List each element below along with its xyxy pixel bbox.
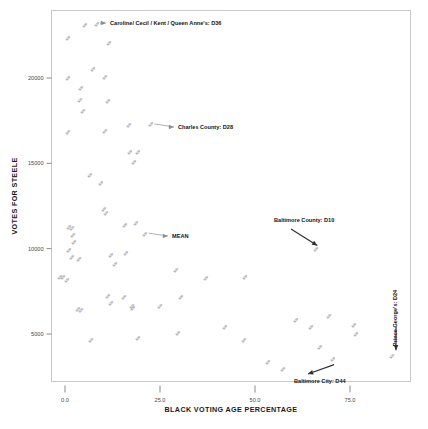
data-point-marker: ✐ <box>102 128 108 135</box>
scatter-chart: 5000100001500020000 0.025.050.075.0 VOTE… <box>0 0 428 429</box>
data-point-marker: ✐ <box>65 35 71 42</box>
data-point-marker: ✐ <box>122 222 128 229</box>
data-point-marker: ✐ <box>80 108 86 115</box>
annotation-charles-county: Charles County: D28 <box>154 124 233 130</box>
data-point-marker: ✐ <box>64 277 70 284</box>
y-tick-label: 10000 <box>28 246 44 252</box>
data-point-marker: ✐ <box>148 121 154 128</box>
data-point-marker: ✐ <box>71 239 77 246</box>
annotation-text: Prince George's: D24 <box>392 289 398 346</box>
data-point-marker: ✐ <box>389 353 395 360</box>
y-tick-label: 20000 <box>28 75 44 81</box>
y-tick-label: 15000 <box>28 160 44 166</box>
data-point-marker: ✐ <box>280 366 286 373</box>
annotation-layer: Caroline/ Cecil / Kent / Queen Anne's: D… <box>100 20 398 384</box>
annotation-text: Caroline/ Cecil / Kent / Queen Anne's: D… <box>110 20 221 26</box>
annotation-text: Baltimore City: D44 <box>294 378 346 384</box>
y-axis-ticks: 5000100001500020000 <box>28 75 52 337</box>
annotation-baltimore-county: Baltimore County: D10 <box>274 217 334 246</box>
data-point-layer: ✐✐✐✐✐✐✐✐✐✐✐✐✐✐✐✐✐✐✐✐✐✐✐✐✐✐✐✐✐✐✐✐✐✐✐✐✐✐✐✐… <box>57 21 394 374</box>
annotation-caroline-cecil-kent-queen-annes: Caroline/ Cecil / Kent / Queen Anne's: D… <box>100 20 221 26</box>
annotation-mean: MEAN <box>149 233 189 239</box>
data-point-marker: ✐ <box>293 317 299 324</box>
annotation-arrow-head <box>101 21 106 26</box>
data-point-marker: ✐ <box>126 122 132 129</box>
data-point-marker: ✐ <box>105 98 111 105</box>
data-point-marker: ✐ <box>108 300 114 307</box>
data-point-marker: ✐ <box>127 149 133 156</box>
data-point-marker: ✐ <box>82 22 88 29</box>
annotation-baltimore-city: Baltimore City: D44 <box>294 365 346 384</box>
data-point-marker: ✐ <box>88 337 94 344</box>
data-point-marker: ✐ <box>135 149 141 156</box>
x-axis-ticks: 0.025.050.075.0 <box>61 386 355 403</box>
data-point-marker: ✐ <box>121 294 127 301</box>
data-point-marker: ✐ <box>241 337 247 344</box>
data-point-marker: ✐ <box>87 172 93 179</box>
data-point-marker: ✐ <box>351 322 357 329</box>
annotation-arrow-head <box>163 234 168 239</box>
data-point-marker: ✐ <box>103 210 109 217</box>
data-point-marker: ✐ <box>242 274 248 281</box>
data-point-marker: ✐ <box>98 180 104 187</box>
data-point-marker: ✐ <box>353 331 359 338</box>
data-point-marker: ✐ <box>94 21 100 28</box>
data-point-marker: ✐ <box>123 250 129 257</box>
data-point-marker: ✐ <box>133 220 139 227</box>
data-point-marker: ✐ <box>112 261 118 268</box>
x-tick-label: 25.0 <box>155 397 166 403</box>
data-point-marker: ✐ <box>69 254 75 261</box>
y-axis-title: VOTES FOR STEELE <box>10 157 19 234</box>
data-point-marker: ✐ <box>65 129 71 136</box>
plot-canvas: 5000100001500020000 0.025.050.075.0 VOTE… <box>0 0 428 429</box>
annotation-text: Baltimore County: D10 <box>274 217 334 223</box>
annotation-arrow-head <box>308 370 314 374</box>
annotation-text: MEAN <box>172 233 188 239</box>
annotation-arrow-head <box>394 345 399 350</box>
data-point-marker: ✐ <box>330 356 336 363</box>
data-point-marker: ✐ <box>222 324 228 331</box>
data-point-marker: ✐ <box>326 313 332 320</box>
data-point-marker: ✐ <box>135 335 141 342</box>
data-point-marker: ✐ <box>178 294 184 301</box>
data-point-marker: ✐ <box>131 159 137 166</box>
data-point-marker: ✐ <box>130 305 136 312</box>
data-point-marker: ✐ <box>78 85 84 92</box>
data-point-marker: ✐ <box>142 231 148 238</box>
annotation-prince-georges: Prince George's: D24 <box>392 289 398 350</box>
data-point-marker: ✐ <box>313 246 319 253</box>
y-tick-label: 5000 <box>31 331 43 337</box>
x-tick-label: 75.0 <box>345 397 356 403</box>
data-point-marker: ✐ <box>203 275 209 282</box>
x-axis-title: BLACK VOTING AGE PERCENTAGE <box>165 405 298 414</box>
annotation-text: Charles County: D28 <box>178 124 233 130</box>
data-point-marker: ✐ <box>157 303 163 310</box>
data-point-marker: ✐ <box>76 256 82 263</box>
data-point-marker: ✐ <box>106 40 112 47</box>
data-point-marker: ✐ <box>90 66 96 73</box>
data-point-marker: ✐ <box>66 247 72 254</box>
data-point-marker: ✐ <box>317 344 323 351</box>
data-point-marker: ✐ <box>175 330 181 337</box>
data-point-marker: ✐ <box>77 97 83 104</box>
data-point-marker: ✐ <box>173 267 179 274</box>
x-tick-label: 50.0 <box>250 397 261 403</box>
data-point-marker: ✐ <box>78 307 84 314</box>
annotation-arrow-head <box>169 125 174 130</box>
x-tick-label: 0.0 <box>61 397 69 403</box>
data-point-marker: ✐ <box>102 74 108 81</box>
data-point-marker: ✐ <box>265 359 271 366</box>
data-point-marker: ✐ <box>108 252 114 259</box>
data-point-marker: ✐ <box>65 75 71 82</box>
data-point-marker: ✐ <box>308 324 314 331</box>
